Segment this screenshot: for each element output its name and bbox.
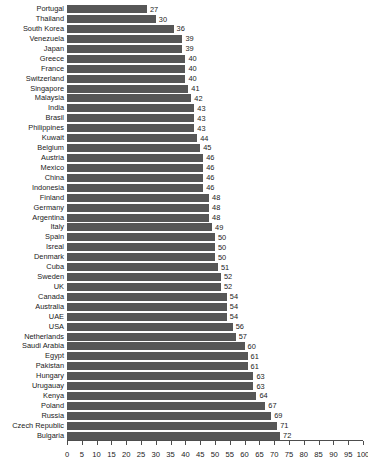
bar-value-label: 43 bbox=[197, 124, 205, 133]
bar-value-label: 50 bbox=[218, 253, 226, 262]
x-axis-tick bbox=[215, 441, 216, 445]
category-label: UK bbox=[0, 282, 64, 291]
bar-value-label: 71 bbox=[280, 421, 288, 430]
bar-value-label: 52 bbox=[224, 282, 232, 291]
bar bbox=[67, 243, 215, 251]
x-axis-tick bbox=[67, 441, 68, 445]
bar-value-label: 44 bbox=[200, 134, 208, 143]
category-label: Pakistan bbox=[0, 361, 64, 370]
category-label: Germany bbox=[0, 203, 64, 212]
x-axis-tick-label: 70 bbox=[270, 450, 278, 460]
category-label: Italy bbox=[0, 222, 64, 231]
x-axis-tick bbox=[333, 441, 334, 445]
bar bbox=[67, 134, 197, 142]
bar-value-label: 63 bbox=[256, 372, 264, 381]
bar-value-label: 30 bbox=[159, 15, 167, 24]
bar-value-label: 64 bbox=[259, 391, 267, 400]
category-label: Brasil bbox=[0, 113, 64, 122]
x-axis-tick-label: 25 bbox=[137, 450, 145, 460]
bar-value-label: 54 bbox=[230, 292, 238, 301]
bar bbox=[67, 412, 271, 420]
bar bbox=[67, 313, 227, 321]
bar-value-label: 61 bbox=[251, 362, 259, 371]
bar-value-label: 41 bbox=[191, 84, 199, 93]
category-label: UAE bbox=[0, 312, 64, 321]
bar-value-label: 46 bbox=[206, 173, 214, 182]
bar-value-label: 46 bbox=[206, 183, 214, 192]
bar-value-label: 63 bbox=[256, 382, 264, 391]
x-axis-tick-label: 35 bbox=[166, 450, 174, 460]
x-axis-tick bbox=[82, 441, 83, 445]
category-label: Mexico bbox=[0, 163, 64, 172]
bar-value-label: 27 bbox=[150, 5, 158, 14]
bar-value-label: 39 bbox=[185, 34, 193, 43]
x-axis-tick-label: 75 bbox=[285, 450, 293, 460]
x-axis-tick bbox=[185, 441, 186, 445]
bar bbox=[67, 323, 233, 331]
bar-value-label: 51 bbox=[221, 263, 229, 272]
bar bbox=[67, 194, 209, 202]
bar bbox=[67, 45, 182, 53]
bar bbox=[67, 15, 156, 23]
x-axis-tick-label: 30 bbox=[152, 450, 160, 460]
bar-value-label: 50 bbox=[218, 233, 226, 242]
bar bbox=[67, 204, 209, 212]
category-label: Philippines bbox=[0, 123, 64, 132]
bar bbox=[67, 85, 188, 93]
category-label: Bulgaria bbox=[0, 431, 64, 440]
x-axis-tick-label: 45 bbox=[196, 450, 204, 460]
category-label: Portugal bbox=[0, 4, 64, 13]
x-axis-tick bbox=[156, 441, 157, 445]
category-label: Spain bbox=[0, 232, 64, 241]
category-label: Kuwait bbox=[0, 133, 64, 142]
bar-value-label: 46 bbox=[206, 153, 214, 162]
bar-value-label: 54 bbox=[230, 312, 238, 321]
category-label: Malaysia bbox=[0, 93, 64, 102]
category-label: Greece bbox=[0, 54, 64, 63]
x-axis-tick bbox=[363, 441, 364, 445]
bar bbox=[67, 333, 236, 341]
bar-value-label: 42 bbox=[194, 94, 202, 103]
bar bbox=[67, 114, 194, 122]
category-label: Russia bbox=[0, 411, 64, 420]
bar-value-label: 43 bbox=[197, 114, 205, 123]
x-axis-tick-label: 95 bbox=[344, 450, 352, 460]
bar-value-label: 48 bbox=[212, 203, 220, 212]
bar-value-label: 48 bbox=[212, 193, 220, 202]
category-label: Hungary bbox=[0, 371, 64, 380]
category-label: Switzerland bbox=[0, 74, 64, 83]
category-label: Czech Republic bbox=[0, 421, 64, 430]
x-axis-tick bbox=[304, 441, 305, 445]
category-label: China bbox=[0, 173, 64, 182]
category-label: Egypt bbox=[0, 351, 64, 360]
bar-value-label: 54 bbox=[230, 302, 238, 311]
category-label: Saudi Arabia bbox=[0, 341, 64, 350]
x-axis-tick-label: 40 bbox=[181, 450, 189, 460]
x-axis-tick bbox=[274, 441, 275, 445]
bar-value-label: 39 bbox=[185, 44, 193, 53]
bar bbox=[67, 233, 215, 241]
x-axis-tick bbox=[171, 441, 172, 445]
x-axis-tick-label: 80 bbox=[300, 450, 308, 460]
category-label: Japan bbox=[0, 44, 64, 53]
bar bbox=[67, 75, 185, 83]
bar-value-label: 69 bbox=[274, 411, 282, 420]
bar-value-label: 56 bbox=[236, 322, 244, 331]
category-label: India bbox=[0, 103, 64, 112]
x-axis-tick bbox=[259, 441, 260, 445]
category-label: Cuba bbox=[0, 262, 64, 271]
category-label: Urugauay bbox=[0, 381, 64, 390]
category-label: Finland bbox=[0, 193, 64, 202]
bar bbox=[67, 184, 203, 192]
x-axis-tick-label: 55 bbox=[226, 450, 234, 460]
bar bbox=[67, 35, 182, 43]
bar bbox=[67, 144, 200, 152]
bar bbox=[67, 124, 194, 132]
category-label: Indonesia bbox=[0, 183, 64, 192]
x-axis-tick-label: 0 bbox=[65, 450, 69, 460]
category-label: Netherlands bbox=[0, 332, 64, 341]
x-axis-tick bbox=[230, 441, 231, 445]
x-axis-tick-label: 20 bbox=[122, 450, 130, 460]
bar bbox=[67, 164, 203, 172]
category-label: Isreal bbox=[0, 242, 64, 251]
